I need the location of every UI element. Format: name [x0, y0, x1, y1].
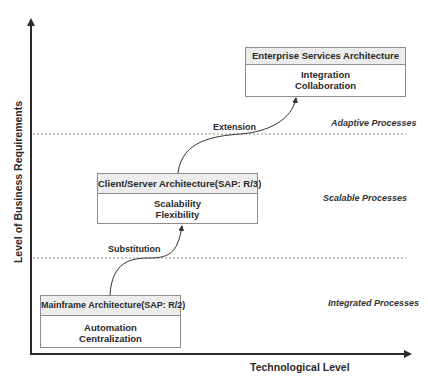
benefit: Automation — [41, 322, 180, 333]
substitution-arrow — [110, 226, 182, 295]
tier-label-adaptive: Adaptive Processes — [331, 118, 417, 128]
stage-box-mainframe: Mainframe Architecture(SAP: R/2) Automat… — [40, 295, 181, 348]
stage-benefits: Scalability Flexibility — [98, 194, 257, 220]
tier-label-integrated: Integrated Processes — [328, 298, 419, 308]
x-axis-label: Technological Level — [250, 361, 350, 373]
benefit: Collaboration — [246, 80, 405, 91]
benefit: Scalability — [98, 198, 257, 209]
extension-arrow — [178, 98, 296, 173]
stage-box-enterprise: Enterprise Services Architecture Integra… — [245, 47, 406, 97]
benefit: Centralization — [41, 333, 180, 344]
stage-benefits: Integration Collaboration — [246, 65, 405, 91]
transition-label-extension: Extension — [213, 122, 256, 132]
transition-label-substitution: Substitution — [108, 244, 161, 254]
y-axis-label: Level of Business Requirements — [12, 92, 24, 272]
tier-label-scalable: Scalable Processes — [323, 193, 407, 203]
benefit: Flexibility — [98, 209, 257, 220]
stage-box-client-server: Client/Server Architecture(SAP: R/3) Sca… — [97, 173, 258, 224]
stage-title: Client/Server Architecture(SAP: R/3) — [98, 174, 257, 194]
benefit: Integration — [246, 69, 405, 80]
stage-title: Mainframe Architecture(SAP: R/2) — [41, 296, 180, 316]
stage-benefits: Automation Centralization — [41, 316, 180, 344]
stage-title: Enterprise Services Architecture — [246, 48, 405, 65]
